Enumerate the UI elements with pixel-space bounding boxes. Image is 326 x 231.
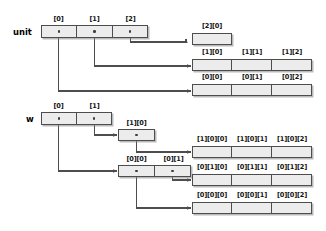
unit-row1-label-0: [1][0] <box>192 48 232 56</box>
w-leaf00-label-1: [0][0][1] <box>232 191 272 199</box>
unit-cell-1[interactable] <box>77 26 112 37</box>
w-mid1-cell-0[interactable] <box>119 130 154 140</box>
w-leaf10-cell-2[interactable] <box>272 147 311 157</box>
w-mid-row-0-array[interactable] <box>118 165 191 177</box>
w-mid0-label-1: [0][1] <box>155 155 192 163</box>
unit-row-0-array[interactable] <box>192 84 312 96</box>
unit-index-label-0: [0] <box>46 15 71 23</box>
unit-row2-cell-0[interactable] <box>193 34 231 44</box>
unit-index-label-1: [1] <box>82 15 107 23</box>
w-leaf00-cell-1[interactable] <box>232 203 271 213</box>
wire-w-0-0 <box>137 172 192 208</box>
unit-cell-0[interactable] <box>42 26 77 37</box>
w-leaf10-label-2: [1][0][2] <box>272 135 312 143</box>
w-mid0-cell-0[interactable] <box>119 166 155 176</box>
unit-row1-label-2: [1][2] <box>272 48 312 56</box>
w-leaf10-cell-1[interactable] <box>232 147 271 157</box>
unit-row2-label-0: [2][0] <box>192 22 232 30</box>
w-leaf-row-00-array[interactable] <box>192 202 312 214</box>
unit-row0-label-1: [0][1] <box>232 73 272 81</box>
w-mid0-cell-1[interactable] <box>155 166 190 176</box>
w-leaf01-cell-2[interactable] <box>272 175 311 185</box>
w-leaf01-label-0: [0][1][0] <box>192 163 232 171</box>
w-array[interactable] <box>41 112 112 125</box>
diagram-canvas: unit [0] [1] [2] [2][0] [1][0] [1][1] [1… <box>0 0 326 231</box>
unit-var-label: unit <box>13 27 32 37</box>
unit-cell-2[interactable] <box>113 26 147 37</box>
unit-row1-label-1: [1][1] <box>232 48 272 56</box>
unit-index-label-2: [2] <box>118 15 143 23</box>
w-leaf01-label-2: [0][1][2] <box>272 163 312 171</box>
unit-row0-cell-2[interactable] <box>272 85 311 95</box>
w-leaf01-cell-0[interactable] <box>193 175 232 185</box>
wire-unit-0 <box>59 32 192 91</box>
unit-row-1-array[interactable] <box>192 59 312 71</box>
w-leaf-row-10-array[interactable] <box>192 146 312 158</box>
w-leaf00-label-2: [0][0][2] <box>272 191 312 199</box>
unit-row0-label-2: [0][2] <box>272 73 312 81</box>
w-leaf10-label-0: [1][0][0] <box>192 135 232 143</box>
unit-row0-label-0: [0][0] <box>192 73 232 81</box>
unit-row1-cell-0[interactable] <box>193 60 232 70</box>
w-cell-0[interactable] <box>42 113 77 124</box>
w-index-label-1: [1] <box>82 102 107 110</box>
w-leaf-row-01-array[interactable] <box>192 174 312 186</box>
unit-array[interactable] <box>41 25 148 38</box>
w-var-label: w <box>26 114 34 124</box>
w-mid0-label-0: [0][0] <box>118 155 155 163</box>
wire-w-0 <box>59 119 118 171</box>
w-leaf10-cell-0[interactable] <box>193 147 232 157</box>
w-mid-row-1-array[interactable] <box>118 129 155 141</box>
w-leaf00-cell-2[interactable] <box>272 203 311 213</box>
w-leaf01-cell-1[interactable] <box>232 175 271 185</box>
unit-row0-cell-0[interactable] <box>193 85 232 95</box>
w-index-label-0: [0] <box>46 102 71 110</box>
unit-row1-cell-1[interactable] <box>232 60 271 70</box>
w-leaf01-label-1: [0][1][1] <box>232 163 272 171</box>
w-leaf00-cell-0[interactable] <box>193 203 232 213</box>
w-leaf10-label-1: [1][0][1] <box>232 135 272 143</box>
w-mid1-label-0: [1][0] <box>118 119 155 127</box>
w-leaf00-label-0: [0][0][0] <box>192 191 232 199</box>
unit-row-2-array[interactable] <box>192 33 232 45</box>
w-cell-1[interactable] <box>77 113 111 124</box>
unit-row1-cell-2[interactable] <box>272 60 311 70</box>
unit-row0-cell-1[interactable] <box>232 85 271 95</box>
